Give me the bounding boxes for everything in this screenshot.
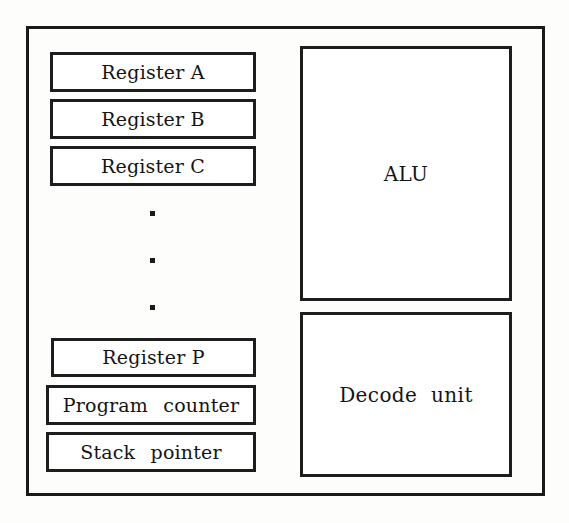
register-box-c: Register C bbox=[50, 146, 256, 186]
stack-pointer-label: Stack pointer bbox=[80, 443, 222, 462]
alu-label: ALU bbox=[384, 164, 429, 184]
register-box-c-label: Register C bbox=[101, 157, 205, 176]
program-counter-box: Program counter bbox=[46, 385, 256, 425]
register-box-p-label: Register P bbox=[102, 348, 204, 367]
ellipsis-dot-3 bbox=[150, 305, 155, 310]
register-box-b-label: Register B bbox=[101, 110, 205, 129]
register-box-b: Register B bbox=[50, 99, 256, 139]
decode-unit-box: Decode unit bbox=[300, 312, 512, 477]
program-counter-label: Program counter bbox=[63, 396, 239, 415]
alu-box: ALU bbox=[300, 46, 512, 301]
cpu-block-diagram: Register A Register B Register C Registe… bbox=[0, 0, 569, 523]
ellipsis-dot-2 bbox=[150, 258, 155, 263]
register-box-a-label: Register A bbox=[101, 63, 204, 82]
register-box-a: Register A bbox=[50, 52, 256, 92]
stack-pointer-box: Stack pointer bbox=[46, 432, 256, 472]
decode-unit-label: Decode unit bbox=[339, 385, 473, 405]
register-box-p: Register P bbox=[51, 338, 256, 377]
ellipsis-dot-1 bbox=[150, 211, 155, 216]
